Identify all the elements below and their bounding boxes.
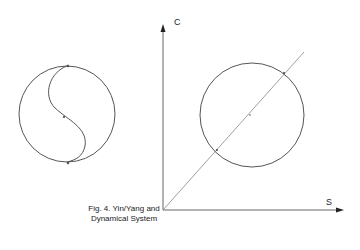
figure-canvas: C S bbox=[0, 0, 360, 250]
center-point bbox=[63, 116, 64, 117]
upper-intersection-point bbox=[283, 72, 285, 74]
circle-center-point bbox=[249, 114, 250, 115]
x-axis-arrow-icon bbox=[336, 208, 344, 213]
caption-line-2: Dynamical System bbox=[68, 214, 180, 224]
figure: C S Fig. 4. Yin/Yang and Dynamical Syste… bbox=[0, 0, 360, 250]
figure-caption: Fig. 4. Yin/Yang and Dynamical System bbox=[68, 204, 180, 224]
yin-yang-diagram bbox=[19, 65, 115, 164]
y-axis-arrow-icon bbox=[161, 24, 166, 32]
diagonal-line bbox=[163, 52, 304, 210]
y-axis-label: C bbox=[174, 17, 181, 27]
top-point bbox=[67, 65, 69, 67]
caption-line-1: Fig. 4. Yin/Yang and bbox=[68, 204, 180, 214]
bottom-point bbox=[67, 162, 69, 164]
yin-yang-s-curve bbox=[49, 66, 86, 162]
yin-yang-outer-circle bbox=[19, 66, 115, 162]
x-axis-label: S bbox=[326, 197, 332, 207]
lower-intersection-point bbox=[216, 149, 218, 151]
dynamical-system-diagram: C S bbox=[161, 17, 345, 213]
